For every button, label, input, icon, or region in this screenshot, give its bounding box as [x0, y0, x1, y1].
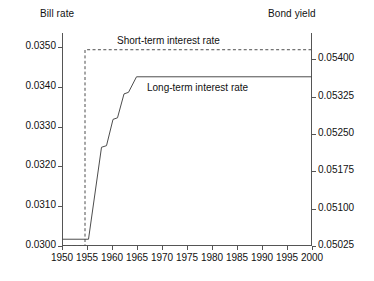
left-tick-label: 0.0310: [25, 199, 56, 210]
series-lines: [62, 33, 312, 246]
left-tick-label: 0.0350: [25, 40, 56, 51]
long-term-line: [62, 77, 312, 239]
right-tick-mark: [312, 171, 316, 172]
right-tick-label: 0.05400: [318, 52, 354, 63]
x-tick-mark: [137, 246, 138, 250]
right-tick-label: 0.05325: [318, 90, 354, 101]
right-tick-mark: [312, 209, 316, 210]
x-tick-mark: [187, 246, 188, 250]
left-tick-label: 0.0340: [25, 80, 56, 91]
x-tick-mark: [87, 246, 88, 250]
x-tick-mark: [162, 246, 163, 250]
short-term-line: [62, 50, 312, 246]
x-tick-mark: [62, 246, 63, 250]
left-tick-label: 0.0320: [25, 159, 56, 170]
right-tick-label: 0.05250: [318, 127, 354, 138]
right-tick-mark: [312, 134, 316, 135]
right-tick-label: 0.05100: [318, 202, 354, 213]
annotation-short-term: Short-term interest rate: [117, 35, 220, 46]
left-tick-label: 0.0330: [25, 120, 56, 131]
x-tick-label: 2000: [292, 252, 332, 263]
left-axis-title: Bill rate: [40, 8, 74, 19]
plot-area: 0.03000.03100.03200.03300.03400.0350 0.0…: [62, 33, 312, 246]
right-tick-mark: [312, 59, 316, 60]
x-tick-mark: [237, 246, 238, 250]
chart-figure: Bill rate Bond yield 0.03000.03100.03200…: [0, 0, 374, 281]
right-tick-mark: [312, 97, 316, 98]
x-tick-mark: [312, 246, 313, 250]
x-tick-mark: [262, 246, 263, 250]
right-tick-label: 0.05025: [318, 239, 354, 250]
x-tick-mark: [112, 246, 113, 250]
x-tick-mark: [212, 246, 213, 250]
right-axis-title: Bond yield: [268, 8, 316, 19]
x-tick-mark: [287, 246, 288, 250]
right-tick-label: 0.05175: [318, 164, 354, 175]
annotation-long-term: Long-term interest rate: [147, 82, 248, 93]
left-tick-label: 0.0300: [25, 239, 56, 250]
